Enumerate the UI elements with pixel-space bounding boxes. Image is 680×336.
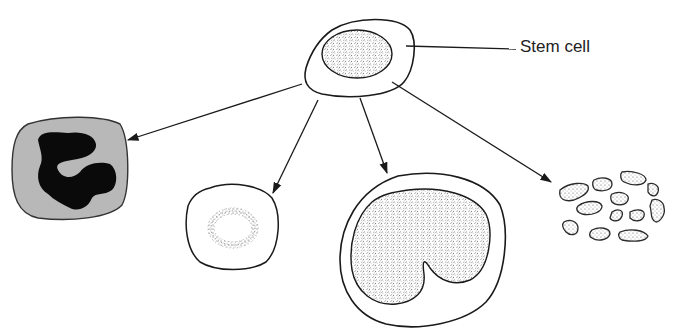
platelet <box>648 183 658 195</box>
granulocyte-cell <box>12 117 128 219</box>
platelet-cluster <box>560 171 665 241</box>
arrow-to-monocyte <box>360 98 387 173</box>
platelet <box>650 199 664 222</box>
platelet <box>619 230 648 241</box>
arrows <box>128 82 551 193</box>
platelet <box>577 202 602 215</box>
small-cell-membrane <box>186 184 278 269</box>
small-clear-cell <box>186 184 278 269</box>
platelet <box>563 220 578 234</box>
arrow-to-platelets <box>392 82 551 182</box>
platelet <box>610 210 622 221</box>
arrow-to-small-cell <box>273 100 318 193</box>
platelet <box>593 178 612 191</box>
stem-cell-leader-line <box>406 46 516 49</box>
stem-cell-nucleus <box>322 30 392 78</box>
monocyte-cell <box>340 173 505 326</box>
arrow-to-granulocyte <box>128 84 302 140</box>
platelet <box>630 210 644 221</box>
platelet <box>621 171 646 184</box>
stem-cell-label: Stem cell <box>520 37 590 57</box>
platelet <box>611 192 629 204</box>
platelet <box>590 228 610 240</box>
platelet <box>560 183 589 200</box>
